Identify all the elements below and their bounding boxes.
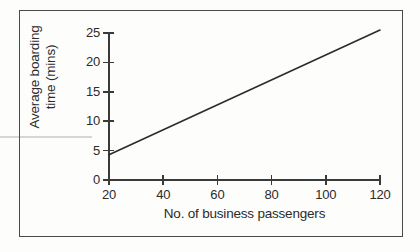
chart-page: 0510152025 20406080100120 Average boardi… [0,0,420,252]
data-series-line [109,30,380,155]
x-axis-title: No. of business passengers [108,206,381,221]
y-axis-title: Average boarding time (mins) [27,0,61,157]
line-chart: 0510152025 20406080100120 Average boardi… [0,0,420,252]
y-axis-title-line-2: time (mins) [43,0,59,157]
y-axis-title-line-1: Average boarding [27,0,43,157]
